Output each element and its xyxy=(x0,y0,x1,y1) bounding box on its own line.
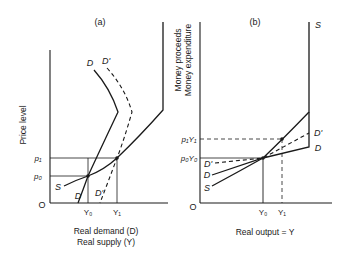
panel-b-y-axis-label-1: Money proceeds xyxy=(173,29,183,92)
panel-a-p1-label: p₁ xyxy=(34,154,42,163)
panel-a-origin: O xyxy=(38,200,45,210)
panel-b-supply-label-left: S xyxy=(204,183,210,193)
panel-a-equilibrium-1 xyxy=(115,156,119,160)
panel-b-x-axis-label: Real output = Y xyxy=(236,227,295,237)
panel-b-equilibrium-0 xyxy=(261,156,265,160)
panel-b-origin: O xyxy=(189,202,196,212)
panel-b-y1-label: Y₁ xyxy=(278,208,286,217)
panel-a-y-axis-label: Price level xyxy=(18,105,28,144)
panel-a-y0-label: Y₀ xyxy=(84,208,93,217)
panel-b-demand-shifted-label-right: D' xyxy=(314,128,322,138)
panel-b-supply-curve xyxy=(212,22,309,186)
panel-b-demand-label-left: D xyxy=(204,170,211,180)
panel-b-equilibrium-1 xyxy=(280,137,284,141)
panel-a-equilibrium-0 xyxy=(86,174,90,178)
panel-b-p1y1-label: p₁Y₁ xyxy=(181,135,197,144)
panel-b-demand-curve xyxy=(212,112,309,175)
diagram-canvas: (a) Price level O p₁ p₀ Y₀ Y₁ Real deman… xyxy=(0,0,349,259)
panel-b-supply-label-top: S xyxy=(315,20,321,30)
panel-b-title: (b) xyxy=(250,17,261,27)
panel-a-x-axis-label-2: Real supply (Y) xyxy=(77,237,135,247)
panel-b-y0-label: Y₀ xyxy=(259,208,268,217)
panel-a-x-axis-label-1: Real demand (D) xyxy=(74,226,139,236)
panel-a-p0-label: p₀ xyxy=(33,172,42,181)
panel-a-demand-label-top: D xyxy=(87,58,94,68)
panel-b-p0y0-label: p₀Y₀ xyxy=(180,154,198,163)
panel-a-demand-shifted-curve xyxy=(100,68,132,203)
panel-a-demand-shifted-label-bottom: D' xyxy=(95,188,103,198)
panel-a-title: (a) xyxy=(95,17,106,27)
panel-a-demand-curve xyxy=(78,70,118,203)
panel-a-supply-curve xyxy=(64,22,163,186)
panel-b-demand-label-right: D xyxy=(315,143,322,153)
panel-b-demand-shifted-label-left: D' xyxy=(204,159,212,169)
panel-a-y1-label: Y₁ xyxy=(113,208,121,217)
panel-a-demand-shifted-label-top: D' xyxy=(102,56,110,66)
panel-b-y-axis-label-2: Money expenditure xyxy=(183,24,193,97)
panel-a-supply-label: S xyxy=(55,182,61,192)
panel-a-demand-label-bottom: D xyxy=(75,191,82,201)
